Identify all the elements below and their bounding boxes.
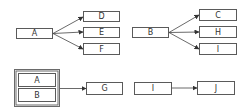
node-h-label: H: [215, 28, 221, 37]
node-i[interactable]: I: [200, 44, 237, 55]
edge-b-h: [169, 32, 199, 33]
node-i-source-label: I: [152, 84, 154, 93]
node-g-label: G: [101, 84, 107, 93]
group-node-b-label: B: [34, 91, 40, 100]
node-g[interactable]: G: [87, 83, 123, 95]
node-i-source[interactable]: I: [135, 83, 172, 95]
i-to-j-diagram: I J: [135, 82, 235, 95]
edge-a-f: [53, 34, 83, 50]
node-i-label: I: [217, 45, 219, 54]
edge-b-c: [169, 15, 199, 33]
node-f[interactable]: F: [84, 44, 120, 55]
group-node-a[interactable]: A: [19, 74, 56, 87]
node-j[interactable]: J: [198, 82, 235, 95]
edge-a-d: [53, 17, 83, 34]
group-node-a-label: A: [34, 76, 40, 85]
group-node-b[interactable]: B: [19, 89, 56, 102]
node-d-label: D: [98, 12, 104, 21]
fan-out-b-diagram: B C H I: [133, 10, 237, 55]
node-h[interactable]: H: [200, 27, 237, 38]
group-to-g-diagram: A B G: [15, 70, 123, 107]
fan-out-a-diagram: A D E F: [17, 12, 120, 55]
edge-b-i: [169, 33, 199, 50]
node-a-label: A: [32, 29, 38, 38]
edge-a-e: [53, 32, 83, 34]
node-a[interactable]: A: [17, 29, 53, 39]
node-c[interactable]: C: [200, 10, 237, 21]
node-c-label: C: [215, 11, 221, 20]
node-f-label: F: [99, 45, 104, 54]
node-b[interactable]: B: [133, 28, 169, 38]
node-e[interactable]: E: [84, 28, 120, 38]
node-d[interactable]: D: [84, 12, 120, 22]
node-j-label: J: [214, 84, 217, 93]
node-b-label: B: [148, 28, 154, 37]
diagram-canvas: A D E F B C H: [0, 0, 248, 111]
node-e-label: E: [99, 28, 104, 37]
